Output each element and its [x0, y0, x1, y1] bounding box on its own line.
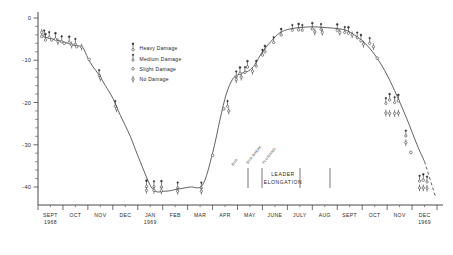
data-point-heavy-damage	[54, 32, 57, 40]
leader-elongation-label-line1: LEADER	[271, 171, 295, 177]
y-tick-label: -40	[22, 184, 31, 190]
data-point-medium-damage	[385, 97, 387, 104]
legend-label: Medium Damage	[140, 56, 182, 62]
x-tick-year-label: 1969	[144, 219, 157, 225]
data-point-heavy-damage	[239, 67, 242, 75]
y-axis-tick-labels: 0-10-20-30-40	[22, 15, 31, 190]
x-tick-label: AUG	[319, 212, 331, 218]
data-point-no-damage	[418, 184, 420, 191]
data-point-no-damage	[405, 139, 407, 146]
data-point-medium-damage	[291, 24, 293, 31]
data-point-medium-damage	[405, 130, 407, 137]
x-tick-year-label: 1968	[44, 219, 57, 225]
x-tick-year-label: 1969	[418, 219, 431, 225]
data-point-medium-damage	[356, 32, 358, 39]
axes	[34, 12, 444, 210]
legend-item: Slight Damage	[132, 66, 177, 72]
data-point-slight-damage	[211, 154, 214, 157]
legend-label: No Damage	[140, 76, 169, 82]
data-point-slight-damage	[75, 45, 78, 48]
data-point-heavy-damage	[145, 180, 148, 188]
x-tick-label: OCT	[70, 212, 82, 218]
data-point-medium-damage	[48, 31, 50, 38]
legend-item: Medium Damage	[132, 54, 182, 62]
x-tick-label: MAR	[194, 212, 206, 218]
legend: Heavy DamageMedium DamageSlight DamageNo…	[132, 43, 182, 83]
data-point-no-damage	[314, 29, 316, 36]
data-point-heavy-damage	[246, 60, 249, 68]
data-point-medium-damage	[226, 100, 228, 107]
data-point-heavy-damage	[360, 34, 363, 42]
phenology-stage-2-label: BUD BREAK	[246, 144, 263, 164]
medium-damage-marker	[132, 54, 134, 61]
x-tick-label: MAY	[244, 212, 256, 218]
data-point-no-damage	[426, 185, 428, 192]
data-point-no-damage	[339, 29, 341, 36]
data-point-medium-damage	[98, 69, 100, 76]
data-point-heavy-damage	[160, 180, 163, 188]
heavy-damage-marker	[132, 43, 135, 51]
data-point-medium-damage	[393, 96, 395, 103]
y-tick-label: -30	[22, 142, 31, 148]
y-tick-label: 0	[28, 15, 31, 21]
chart-root: 0-10-20-30-40 SEPT1968OCTNOVDECJAN1969FE…	[0, 0, 453, 255]
data-point-no-damage	[70, 42, 72, 49]
phenology-stage-3-label: FLUSHING	[262, 147, 277, 165]
data-point-medium-damage	[61, 36, 63, 43]
data-point-medium-damage	[153, 180, 155, 187]
data-point-no-damage	[372, 43, 374, 50]
data-point-slight-damage	[376, 57, 379, 60]
data-point-slight-damage	[222, 108, 225, 111]
x-tick-label: JULY	[293, 212, 307, 218]
x-tick-label: NOV	[94, 212, 106, 218]
data-point-slight-damage	[40, 35, 43, 38]
data-point-no-damage	[393, 110, 395, 117]
x-tick-label: JUNE	[268, 212, 283, 218]
data-point-no-damage	[57, 38, 59, 45]
data-point-medium-damage	[418, 175, 420, 182]
data-point-slight-damage	[50, 39, 53, 42]
x-tick-label: JAN	[145, 212, 156, 218]
x-tick-label: NOV	[394, 212, 406, 218]
x-tick-label: SEPT	[342, 212, 357, 218]
data-point-no-damage	[145, 187, 147, 194]
data-point-no-damage	[422, 184, 424, 191]
data-point-no-damage	[160, 187, 162, 194]
x-tick-label: OCT	[369, 212, 381, 218]
x-tick-label: DEC	[419, 212, 431, 218]
data-point-heavy-damage	[311, 22, 314, 30]
data-point-no-damage	[397, 110, 399, 117]
hardiness-seasonal-chart: 0-10-20-30-40 SEPT1968OCTNOVDECJAN1969FE…	[0, 0, 453, 255]
x-axis-tick-labels: SEPT1968OCTNOVDECJAN1969FEBMARAPRMAYJUNE…	[43, 212, 431, 226]
legend-item: Heavy Damage	[132, 43, 178, 51]
data-curve	[44, 27, 436, 198]
legend-item: No Damage	[132, 76, 169, 83]
data-point-heavy-damage	[297, 23, 300, 31]
y-tick-label: -10	[22, 57, 31, 63]
data-point-medium-damage	[114, 100, 116, 107]
legend-label: Slight Damage	[140, 66, 177, 72]
leader-elongation-label-line2: ELONGATION	[264, 179, 302, 185]
data-point-heavy-damage	[388, 93, 391, 101]
y-tick-label: -20	[22, 100, 31, 106]
slight-damage-marker	[132, 68, 135, 71]
hardiness-curve	[44, 27, 424, 192]
legend-label: Heavy Damage	[140, 45, 178, 51]
data-point-heavy-damage	[422, 173, 425, 181]
data-point-no-damage	[41, 29, 43, 36]
data-point-heavy-damage	[336, 23, 339, 31]
no-damage-marker	[132, 76, 134, 83]
x-tick-label: APR	[219, 212, 231, 218]
data-point-medium-damage	[426, 176, 428, 183]
data-point-no-damage	[385, 110, 387, 117]
data-point-medium-damage	[74, 38, 76, 45]
annotations: LEADERELONGATIONBUDBUD BREAKFLUSHING	[231, 144, 330, 188]
x-tick-label: DEC	[119, 212, 131, 218]
data-point-no-damage	[388, 110, 390, 117]
data-point-no-damage	[80, 44, 82, 51]
x-tick-label: SEPT	[43, 212, 58, 218]
data-point-medium-damage	[369, 37, 371, 44]
hardiness-curve-extrapolated	[425, 162, 436, 198]
data-point-no-damage	[153, 187, 155, 194]
data-point-medium-damage	[244, 66, 246, 73]
